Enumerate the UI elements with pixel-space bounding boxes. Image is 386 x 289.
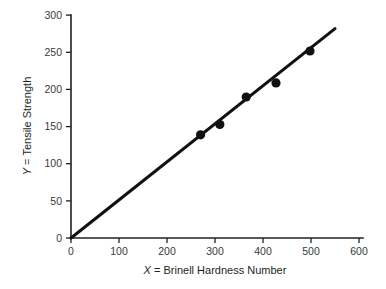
x-tick-label-0: 0 [68,245,74,257]
y-tick-label-100: 100 [44,157,62,169]
chart-canvas: 0 50 100 150 200 250 300 0 100 200 300 4… [0,0,386,289]
data-point [242,92,251,101]
y-tick-label-0: 0 [56,232,62,244]
x-tick-label-100: 100 [110,245,128,257]
y-axis-title-text: = Tensile Strength [21,77,33,168]
x-tick-label-600: 600 [350,245,368,257]
y-axis-title: Y = Tensile Strength [21,77,33,176]
x-tick-label-400: 400 [254,245,272,257]
x-tick-label-500: 500 [302,245,320,257]
data-point [271,78,280,87]
chart-background [0,0,386,289]
y-tick-label-150: 150 [44,120,62,132]
x-tick-label-300: 300 [206,245,224,257]
y-tick-label-50: 50 [50,195,62,207]
x-axis-title-text: = Brinell Hardness Number [151,264,287,276]
data-point [196,130,205,139]
x-axis-title: X = Brinell Hardness Number [143,264,287,276]
y-tick-label-250: 250 [44,46,62,58]
y-tick-label-200: 200 [44,83,62,95]
scatter-plot-figure: 0 50 100 150 200 250 300 0 100 200 300 4… [0,0,386,289]
y-tick-label-300: 300 [44,9,62,21]
data-point [305,46,314,55]
data-point [215,120,224,129]
x-tick-label-200: 200 [158,245,176,257]
